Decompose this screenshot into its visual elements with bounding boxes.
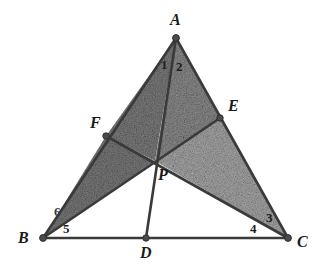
point-label-D: D	[140, 245, 152, 261]
point-label-P: P	[158, 167, 168, 183]
angle-label-6: 6	[54, 205, 61, 218]
angle-label-3: 3	[266, 211, 273, 224]
point-label-A: A	[170, 12, 181, 28]
point-F-dot	[103, 133, 109, 139]
angle-label-2: 2	[176, 60, 183, 73]
point-C-dot	[285, 235, 292, 242]
point-label-F: F	[90, 115, 101, 131]
point-E-dot	[217, 115, 223, 121]
point-label-C: C	[297, 234, 308, 250]
geometry-figure: A B C D E F P 1 2 3 4 5 6	[0, 0, 324, 277]
point-label-B: B	[18, 230, 29, 246]
point-D-dot	[143, 235, 149, 241]
point-A-dot	[173, 35, 180, 42]
angle-label-1: 1	[161, 58, 168, 71]
point-B-dot	[40, 235, 47, 242]
point-label-E: E	[228, 98, 239, 114]
angle-label-4: 4	[250, 222, 257, 235]
angle-label-5: 5	[63, 222, 70, 235]
figure-canvas	[0, 0, 324, 277]
